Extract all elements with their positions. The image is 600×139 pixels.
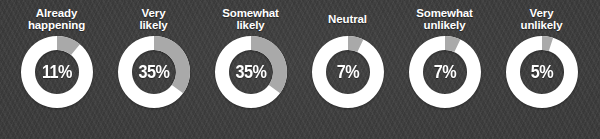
- donut-track-already-happening: [20, 36, 92, 108]
- donut-segment-very-likely: [154, 36, 190, 93]
- donut-graphic-very-likely: 35%: [115, 33, 193, 111]
- donut-svg-somewhat-likely: [212, 33, 290, 111]
- donut-cell-already-happening[interactable]: Already happening11%: [8, 0, 105, 139]
- donut-svg-neutral: [309, 33, 387, 111]
- donut-cell-neutral[interactable]: Neutral7%: [299, 0, 396, 139]
- donut-graphic-somewhat-unlikely: 7%: [406, 33, 484, 111]
- donut-cell-very-likely[interactable]: Very likely35%: [105, 0, 202, 139]
- donut-graphic-very-unlikely: 5%: [503, 33, 581, 111]
- donut-segment-somewhat-likely: [251, 36, 287, 93]
- donut-track-very-unlikely: [505, 36, 577, 108]
- donut-graphic-already-happening: 11%: [18, 33, 96, 111]
- donut-svg-already-happening: [18, 33, 96, 111]
- donut-svg-somewhat-unlikely: [406, 33, 484, 111]
- donut-track-somewhat-unlikely: [408, 36, 480, 108]
- donut-graphic-somewhat-likely: 35%: [212, 33, 290, 111]
- donut-cell-somewhat-unlikely[interactable]: Somewhat unlikely7%: [396, 0, 493, 139]
- donut-label-very-likely: Very likely: [105, 6, 202, 32]
- donut-label-very-unlikely: Very unlikely: [493, 6, 590, 32]
- donut-label-somewhat-likely: Somewhat likely: [202, 6, 299, 32]
- donut-cell-very-unlikely[interactable]: Very unlikely5%: [493, 0, 590, 139]
- donut-chart-panel: Already happening11%Very likely35%Somewh…: [0, 0, 600, 139]
- donut-svg-very-unlikely: [503, 33, 581, 111]
- donut-graphic-neutral: 7%: [309, 33, 387, 111]
- donut-label-somewhat-unlikely: Somewhat unlikely: [396, 6, 493, 32]
- donut-cell-somewhat-likely[interactable]: Somewhat likely35%: [202, 0, 299, 139]
- donut-track-neutral: [311, 36, 383, 108]
- donut-svg-very-likely: [115, 33, 193, 111]
- donut-label-neutral: Neutral: [299, 6, 396, 32]
- donut-label-already-happening: Already happening: [8, 6, 105, 32]
